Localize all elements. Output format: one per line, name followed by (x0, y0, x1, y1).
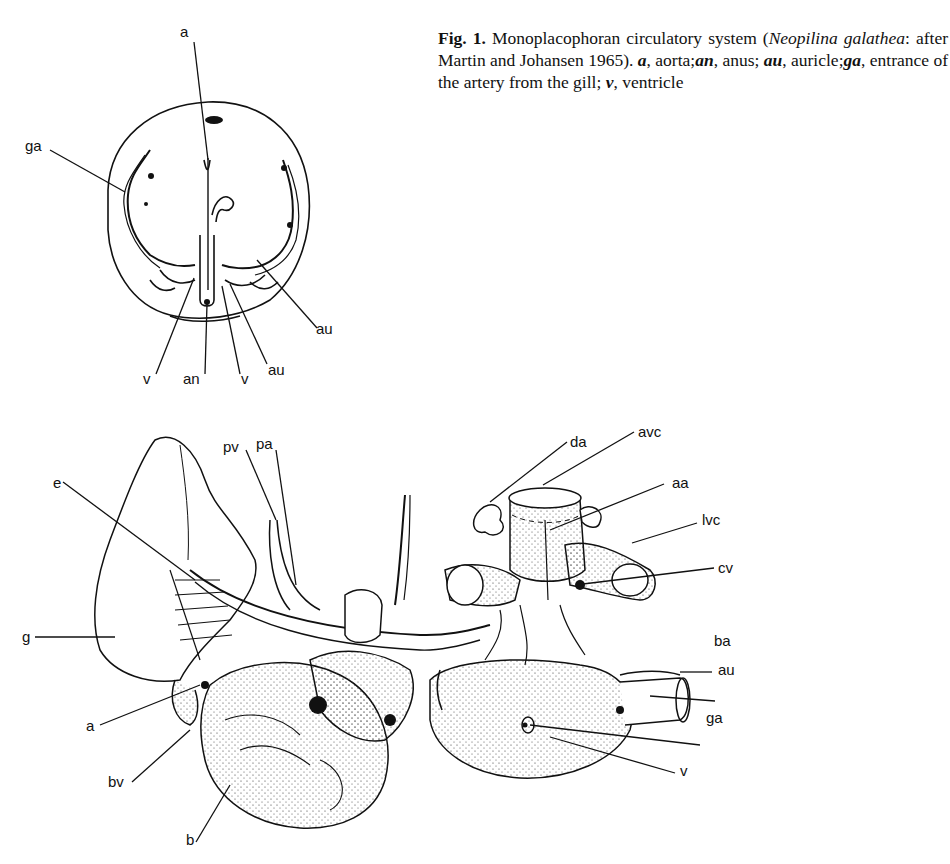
label-avc: avc (638, 424, 661, 439)
label-da: da (570, 434, 587, 449)
top-anatomical-drawing (0, 0, 420, 400)
label-e: e (53, 475, 61, 490)
label-aa: aa (672, 475, 689, 490)
label-a-top: a (180, 24, 188, 39)
label-au-bottom: au (718, 662, 735, 677)
label-au-right: au (316, 321, 333, 336)
legend-desc: auricle (791, 50, 839, 70)
label-pv: pv (223, 439, 239, 454)
species-name: Neopilina galathea (769, 28, 905, 48)
label-a-bottom: a (86, 718, 94, 733)
legend-desc: aorta (655, 50, 690, 70)
figure-number: Fig. 1. (438, 28, 486, 48)
legend-abbr: ga (844, 50, 862, 70)
legend-abbr: v (606, 72, 614, 92)
label-pa: pa (256, 436, 273, 451)
label-b: b (186, 832, 194, 847)
label-cv: cv (718, 560, 733, 575)
legend-abbr: an (695, 50, 713, 70)
label-v-bottom: v (680, 763, 688, 778)
legend-abbr: au (764, 50, 782, 70)
label-bv: bv (108, 774, 124, 789)
label-ba: ba (714, 633, 731, 648)
legend-desc: anus (722, 50, 754, 70)
label-v-right: v (241, 371, 249, 386)
label-au-lower: au (268, 362, 285, 377)
bottom-anatomical-drawing (0, 420, 950, 864)
figure-caption: Fig. 1. Monoplacophoran circulatory syst… (438, 27, 948, 93)
label-g: g (22, 629, 30, 644)
legend-desc: ventricle (622, 72, 683, 92)
figure-page: Fig. 1. Monoplacophoran circulatory syst… (0, 0, 950, 864)
label-lvc: lvc (702, 512, 720, 527)
dark-spot (205, 116, 223, 124)
caption-text: Monoplacophoran circulatory system ( (486, 28, 769, 48)
label-an: an (183, 371, 200, 386)
label-ga-bottom: ga (706, 710, 723, 725)
label-v-left: v (143, 371, 151, 386)
legend-abbr: a (638, 50, 647, 70)
label-ga-top: ga (25, 138, 42, 153)
